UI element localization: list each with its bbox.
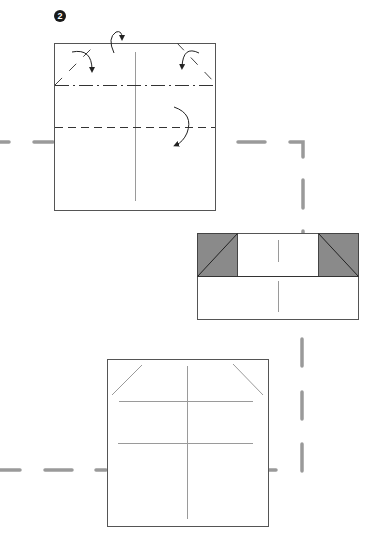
diagram-canvas xyxy=(0,0,370,546)
origami-diagram: 2 xyxy=(0,0,370,546)
figure-b-folded xyxy=(198,234,359,320)
figure-a-square xyxy=(55,32,216,211)
figure-c-unfolded xyxy=(108,360,269,527)
